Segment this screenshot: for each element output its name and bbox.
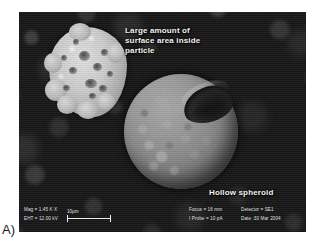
scale-bar-label: 10µm xyxy=(67,209,79,215)
porous-particle-pore xyxy=(99,85,107,92)
porous-particle-pore xyxy=(89,93,96,99)
scale-bar-line xyxy=(67,218,111,219)
porous-particle-lobe xyxy=(44,53,62,73)
porous-particle-lobe xyxy=(97,93,115,110)
info-focus: Focus = 16 mm xyxy=(189,207,222,213)
hollow-spheroid xyxy=(124,74,238,189)
porous-particle-pore xyxy=(73,39,79,45)
annotation-hollow-spheroid: Hollow spheroid xyxy=(209,188,273,198)
porous-particle-pore xyxy=(69,67,77,74)
porous-particle-pore xyxy=(63,85,70,91)
porous-particle-highlight xyxy=(57,73,65,80)
porous-particle-pore xyxy=(101,49,108,56)
porous-particle-highlight xyxy=(87,35,96,42)
porous-particle-pore xyxy=(79,51,90,61)
annotation-surface-area: Large amount of surface area inside part… xyxy=(125,26,200,56)
info-date: Date :30 Mar 2004 xyxy=(241,216,281,222)
porous-particle-lobe xyxy=(77,101,99,119)
info-detector: Detector = SE1 xyxy=(241,207,274,213)
porous-particle-pore xyxy=(93,63,102,71)
porous-particle-lobe xyxy=(107,43,124,63)
porous-particle-lobe xyxy=(57,95,77,114)
porous-particle-pore xyxy=(61,55,67,61)
sem-info-bar: Mag = 1.45 K X EHT = 12.00 kV 10µm Focus… xyxy=(19,206,306,232)
porous-particle xyxy=(49,27,127,117)
sem-micrograph-image: Large amount of surface area inside part… xyxy=(19,12,306,232)
info-eht: EHT = 12.00 kV xyxy=(24,216,58,222)
panel-label: A) xyxy=(2,222,15,237)
porous-particle-pore xyxy=(107,71,113,77)
porous-particle-pore xyxy=(85,79,97,88)
info-i-probe: I Probe = 10 pA xyxy=(189,216,223,222)
scale-bar: 10µm xyxy=(67,209,111,227)
info-magnification: Mag = 1.45 K X xyxy=(24,207,57,213)
porous-particle-highlight xyxy=(67,45,77,53)
